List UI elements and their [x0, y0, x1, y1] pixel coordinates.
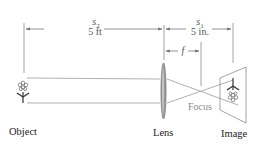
- image-label: Image: [221, 128, 247, 139]
- f-symbol: f: [182, 45, 185, 56]
- s2-value: 5 ft: [80, 27, 110, 37]
- image-plane: [220, 67, 246, 123]
- optics-diagram: [0, 0, 257, 150]
- s1-value: 5 in.: [186, 27, 214, 37]
- lens-icon: [161, 63, 166, 119]
- focus-label: Focus: [188, 101, 212, 112]
- lens-label: Lens: [153, 127, 173, 138]
- object-flower-icon: [17, 81, 29, 103]
- top-ray-incoming: [27, 78, 160, 79]
- f-label: f: [178, 46, 188, 56]
- object-label: Object: [9, 126, 37, 137]
